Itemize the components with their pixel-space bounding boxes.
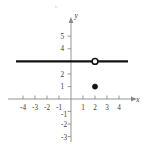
graph-canvas: b [0, 0, 144, 148]
y-tick-label--2: -2 [61, 121, 67, 129]
x-axis-group [8, 96, 137, 102]
x-tick-label--3: -3 [32, 104, 38, 112]
x-tick-label-4: 4 [117, 104, 121, 112]
y-tick-label-4: 4 [60, 45, 64, 53]
y-axis-name-label: y [74, 11, 79, 20]
y-axis-group [68, 17, 74, 142]
corner-mark-label: b [55, 4, 58, 9]
x-tick-label-3: 3 [105, 104, 109, 112]
y-axis-arrow-icon [69, 17, 74, 23]
y-tick-label--1: -1 [61, 111, 67, 119]
x-tick-label-2: 2 [93, 104, 97, 112]
x-tick-label--4: -4 [20, 104, 26, 112]
y-tick-label-5: 5 [60, 33, 64, 41]
x-tick-label-1: 1 [81, 104, 85, 112]
open-circle-marker [92, 59, 98, 65]
y-tick-label-2: 2 [60, 71, 64, 79]
y-tick-label-1: 1 [60, 83, 64, 91]
closed-circle-marker [92, 84, 97, 89]
y-tick-label--3: -3 [61, 134, 67, 142]
y-tick-labels-group: 5 4 2 1 -1 -2 -3 [60, 33, 67, 142]
x-axis-name-label: x [135, 95, 140, 104]
x-tick-label--2: -2 [44, 104, 50, 112]
plot-group [16, 59, 128, 90]
coordinate-plane-figure: b [0, 0, 144, 148]
